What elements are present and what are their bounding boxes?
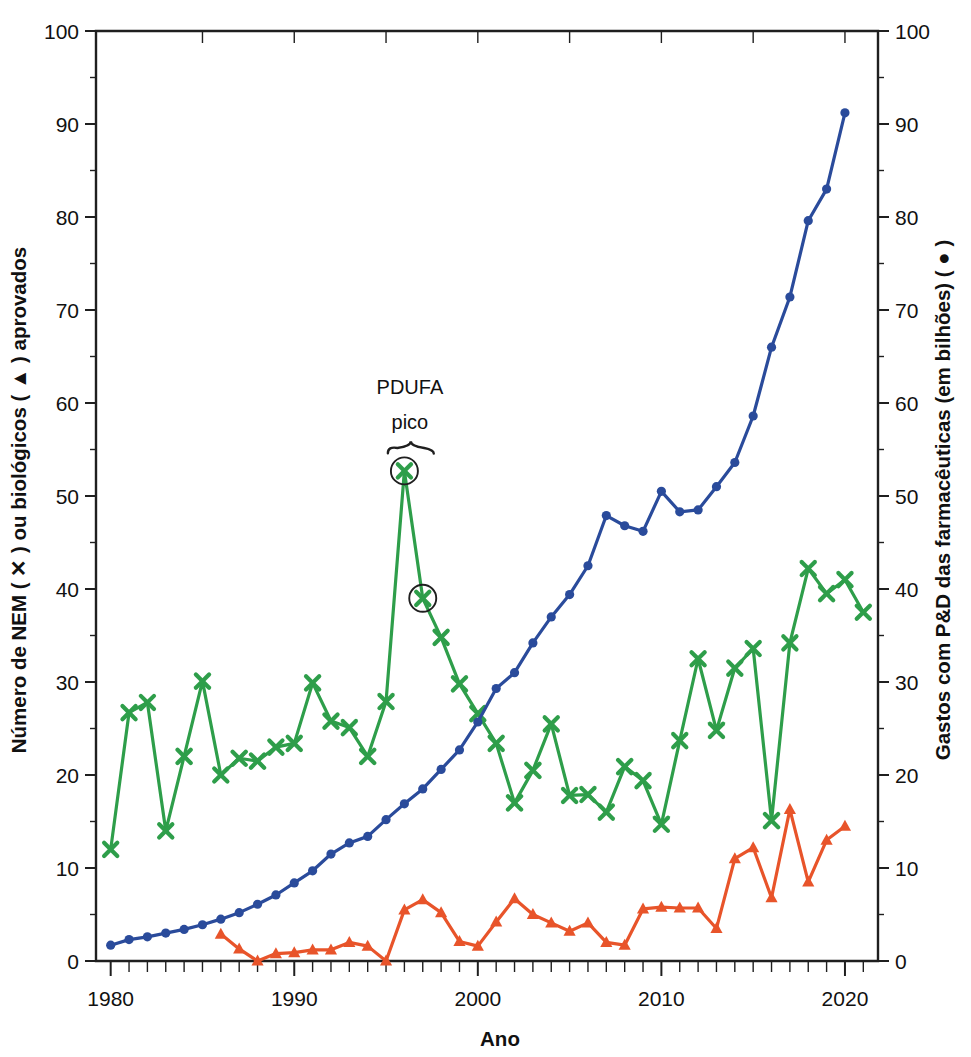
data-point-circle — [180, 925, 189, 934]
y-tick-label-left: 40 — [56, 578, 79, 601]
data-point-circle — [510, 668, 519, 677]
data-point-circle — [822, 185, 831, 194]
y-tick-label-right: 30 — [895, 671, 918, 694]
y-tick-label-left: 50 — [56, 485, 79, 508]
data-point-circle — [400, 799, 409, 808]
y-tick-label-right: 10 — [895, 857, 918, 880]
y-tick-label-right: 60 — [895, 392, 918, 415]
y-tick-label-left: 30 — [56, 671, 79, 694]
data-point-circle — [308, 866, 317, 875]
x-tick-label: 2020 — [822, 987, 869, 1010]
y-tick-label-left: 0 — [67, 950, 79, 973]
data-point-circle — [363, 832, 372, 841]
data-point-circle — [785, 292, 794, 301]
y-tick-label-left: 90 — [56, 113, 79, 136]
chart-figure: 0010102020303040405050606070708080909010… — [0, 0, 971, 1057]
y-axis-right-title: Gastos com P&D das farmacêuticas (em bil… — [931, 240, 954, 760]
y-tick-label-right: 80 — [895, 206, 918, 229]
data-point-circle — [253, 900, 262, 909]
data-point-circle — [730, 458, 739, 467]
data-point-circle — [290, 878, 299, 887]
data-point-circle — [418, 784, 427, 793]
data-point-circle — [620, 521, 629, 530]
x-tick-label: 1990 — [271, 987, 318, 1010]
data-point-circle — [657, 487, 666, 496]
y-tick-label-left: 80 — [56, 206, 79, 229]
data-point-circle — [473, 717, 482, 726]
data-point-circle — [547, 612, 556, 621]
data-point-circle — [804, 216, 813, 225]
data-point-circle — [492, 684, 501, 693]
data-point-circle — [675, 507, 684, 516]
data-point-circle — [712, 482, 721, 491]
data-point-circle — [583, 561, 592, 570]
data-point-circle — [565, 590, 574, 599]
y-tick-label-right: 0 — [895, 950, 907, 973]
data-point-circle — [345, 838, 354, 847]
dual-axis-line-chart: 0010102020303040405050606070708080909010… — [0, 0, 971, 1057]
data-point-circle — [106, 941, 115, 950]
x-tick-label: 1980 — [87, 987, 134, 1010]
data-point-circle — [638, 527, 647, 536]
y-tick-label-left: 100 — [44, 20, 79, 43]
data-point-circle — [161, 929, 170, 938]
data-point-circle — [840, 108, 849, 117]
x-tick-label: 2010 — [638, 987, 685, 1010]
data-point-circle — [455, 745, 464, 754]
data-point-circle — [381, 815, 390, 824]
data-point-circle — [143, 932, 152, 941]
pdufa-peak-label-line1: PDUFA — [377, 376, 444, 398]
data-point-circle — [528, 638, 537, 647]
x-axis-title: Ano — [480, 1027, 520, 1050]
y-tick-label-left: 10 — [56, 857, 79, 880]
data-point-circle — [437, 765, 446, 774]
pdufa-peak-label-line2: pico — [392, 411, 429, 433]
data-point-circle — [216, 915, 225, 924]
y-tick-label-right: 20 — [895, 764, 918, 787]
data-point-circle — [749, 411, 758, 420]
y-tick-label-left: 70 — [56, 299, 79, 322]
data-point-circle — [124, 935, 133, 944]
data-point-circle — [271, 890, 280, 899]
y-tick-label-right: 40 — [895, 578, 918, 601]
data-point-circle — [235, 908, 244, 917]
data-point-circle — [326, 849, 335, 858]
y-tick-label-left: 60 — [56, 392, 79, 415]
x-tick-label: 2000 — [454, 987, 501, 1010]
data-point-circle — [198, 920, 207, 929]
y-tick-label-right: 100 — [895, 20, 930, 43]
y-tick-label-right: 70 — [895, 299, 918, 322]
chart-background — [0, 0, 971, 1057]
data-point-circle — [694, 505, 703, 514]
data-point-circle — [767, 343, 776, 352]
data-point-circle — [602, 511, 611, 520]
y-axis-left-title: Número de NEM ( ✕ ) ou biológicos ( ▲ ) … — [7, 247, 30, 753]
y-tick-label-right: 50 — [895, 485, 918, 508]
y-tick-label-right: 90 — [895, 113, 918, 136]
y-tick-label-left: 20 — [56, 764, 79, 787]
